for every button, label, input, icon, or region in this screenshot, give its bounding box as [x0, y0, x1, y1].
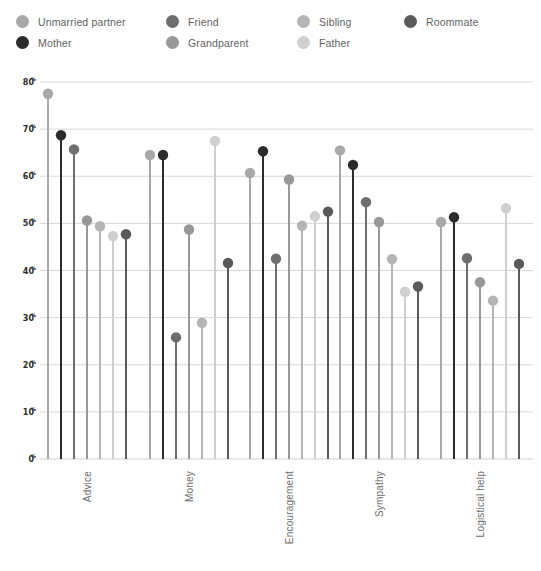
data-point-marker[interactable]: Father — Advice: 47.3%: [108, 231, 118, 241]
x-axis-tick-label: Money: [184, 471, 195, 502]
y-axis-tick-percent-sign: %: [31, 217, 36, 223]
data-point-marker[interactable]: Roommate — Advice: 47.7%: [121, 229, 131, 239]
data-point-marker[interactable]: Sibling — Logistical help: 33.6%: [488, 295, 498, 305]
data-point-marker[interactable]: Sibling — Sympathy: 42.4%: [387, 254, 397, 264]
data-point-marker[interactable]: Father — Encouragement: 51.5%: [310, 211, 320, 221]
data-point-marker[interactable]: Unmarried partner — Encouragement: 60.7%: [245, 168, 255, 178]
data-point-marker[interactable]: Mother — Sympathy: 62.4%: [348, 160, 358, 170]
data-point-marker[interactable]: Grandparent — Encouragement: 59.3%: [284, 174, 294, 184]
legend-item-unmarried-partner[interactable]: Unmarried partner: [16, 12, 126, 31]
y-axis-tick-percent-sign: %: [31, 359, 36, 365]
x-axis-tick-label: Encouragement: [284, 471, 295, 544]
data-point-marker[interactable]: Roommate — Encouragement: 52.5%: [323, 206, 333, 216]
y-axis-tick-percent-sign: %: [31, 265, 36, 271]
y-axis-tick-percent-sign: %: [31, 312, 36, 318]
data-point-marker[interactable]: Friend — Money: 25.8%: [171, 332, 181, 342]
legend-dot-icon: [297, 15, 310, 28]
chart-plot-area: 0%10%20%30%40%50%60%70%80%Unmarried part…: [0, 60, 541, 571]
data-point-marker[interactable]: Friend — Sympathy: 54.5%: [361, 197, 371, 207]
legend-item-mother[interactable]: Mother: [16, 33, 126, 52]
x-axis-tick-label: Advice: [82, 471, 93, 502]
data-point-marker[interactable]: Mother — Logistical help: 51.3%: [449, 212, 459, 222]
data-point-marker[interactable]: Friend — Advice: 65.7%: [69, 144, 79, 154]
data-point-marker[interactable]: Father — Money: 67.5%: [210, 136, 220, 146]
data-point-marker[interactable]: Friend — Logistical help: 42.6%: [462, 253, 472, 263]
legend-dot-icon: [16, 15, 29, 28]
legend-item-label: Grandparent: [188, 37, 249, 49]
legend-column-2: SiblingFather: [297, 12, 352, 54]
data-point-marker[interactable]: Father — Logistical help: 53.2%: [501, 203, 511, 213]
legend-item-label: Unmarried partner: [38, 16, 126, 28]
legend-item-roommate[interactable]: Roommate: [404, 12, 479, 31]
data-point-marker[interactable]: Mother — Advice: 68.7%: [56, 130, 66, 140]
legend-dot-icon: [166, 36, 179, 49]
legend-item-label: Father: [319, 37, 350, 49]
data-point-marker[interactable]: Grandparent — Logistical help: 37.5%: [475, 277, 485, 287]
legend-dot-icon: [404, 15, 417, 28]
data-point-marker[interactable]: Roommate — Sympathy: 36.6%: [413, 281, 423, 291]
legend-item-label: Roommate: [426, 16, 479, 28]
data-point-marker[interactable]: Grandparent — Advice: 50.6%: [82, 215, 92, 225]
data-point-marker[interactable]: Mother — Money: 64.5%: [158, 150, 168, 160]
chart-group-sympathy: Unmarried partner — Sympathy: 65.5%Mothe…: [335, 145, 423, 517]
data-point-marker[interactable]: Unmarried partner — Advice: 77.5%: [43, 89, 53, 99]
y-axis-tick-percent-sign: %: [31, 406, 36, 412]
x-axis-tick-label: Sympathy: [374, 471, 385, 517]
legend-dot-icon: [166, 15, 179, 28]
legend-item-label: Sibling: [319, 16, 352, 28]
legend-item-sibling[interactable]: Sibling: [297, 12, 352, 31]
y-axis-tick-percent-sign: %: [31, 453, 36, 459]
chart-group-money: Unmarried partner — Money: 64.5%Mother —…: [145, 136, 233, 502]
legend-item-father[interactable]: Father: [297, 33, 352, 52]
data-point-marker[interactable]: Grandparent — Money: 48.7%: [184, 224, 194, 234]
data-point-marker[interactable]: Unmarried partner — Money: 64.5%: [145, 150, 155, 160]
lollipop-chart: 0%10%20%30%40%50%60%70%80%Unmarried part…: [0, 60, 541, 571]
legend-dot-icon: [297, 36, 310, 49]
legend-item-friend[interactable]: Friend: [166, 12, 249, 31]
legend-item-grandparent[interactable]: Grandparent: [166, 33, 249, 52]
chart-group-advice: Unmarried partner — Advice: 77.5%Mother …: [43, 89, 131, 503]
data-point-marker[interactable]: Unmarried partner — Sympathy: 65.5%: [335, 145, 345, 155]
legend-item-label: Friend: [188, 16, 219, 28]
x-axis-tick-label: Logistical help: [475, 471, 486, 538]
data-point-marker[interactable]: Friend — Encouragement: 42.5%: [271, 254, 281, 264]
chart-legend: Unmarried partnerMotherFriendGrandparent…: [0, 0, 541, 60]
legend-dot-icon: [16, 36, 29, 49]
data-point-marker[interactable]: Roommate — Logistical help: 41.4%: [514, 259, 524, 269]
y-axis-tick-percent-sign: %: [31, 123, 36, 129]
legend-column-1: FriendGrandparent: [166, 12, 249, 54]
data-point-marker[interactable]: Father — Sympathy: 35.5%: [400, 287, 410, 297]
chart-group-encouragement: Unmarried partner — Encouragement: 60.7%…: [245, 146, 333, 544]
data-point-marker[interactable]: Sibling — Advice: 49.4%: [95, 221, 105, 231]
legend-column-0: Unmarried partnerMother: [16, 12, 126, 54]
chart-group-logistical-help: Unmarried partner — Logistical help: 50.…: [436, 203, 524, 537]
data-point-marker[interactable]: Roommate — Money: 41.6%: [223, 258, 233, 268]
data-point-marker[interactable]: Grandparent — Sympathy: 50.3%: [374, 217, 384, 227]
data-point-marker[interactable]: Unmarried partner — Logistical help: 50.…: [436, 217, 446, 227]
data-point-marker[interactable]: Sibling — Money: 28.9%: [197, 318, 207, 328]
data-point-marker[interactable]: Mother — Encouragement: 65.3%: [258, 146, 268, 156]
legend-column-3: Roommate: [404, 12, 479, 33]
y-axis-tick-percent-sign: %: [31, 170, 36, 176]
data-point-marker[interactable]: Sibling — Encouragement: 49.5%: [297, 221, 307, 231]
y-axis-tick-percent-sign: %: [31, 76, 36, 82]
legend-item-label: Mother: [38, 37, 72, 49]
